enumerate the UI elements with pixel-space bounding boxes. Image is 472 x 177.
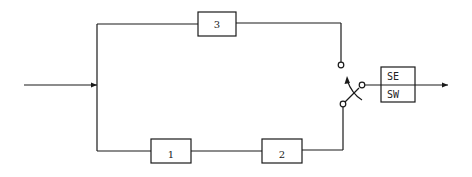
block-2-label: 2 <box>279 149 285 160</box>
changeover-switch <box>338 62 365 107</box>
output-block-bottom-label: SW <box>387 89 400 100</box>
block-diagram: 3 1 2 SE SW <box>0 0 472 177</box>
switch-contact-bottom <box>340 101 346 107</box>
block-3: 3 <box>198 12 236 36</box>
block-2: 2 <box>262 139 302 163</box>
switch-contact-top <box>338 62 344 68</box>
block-1-label: 1 <box>168 149 174 160</box>
block-3-label: 3 <box>214 19 220 30</box>
block-1: 1 <box>151 139 191 163</box>
switch-contact-common <box>359 82 365 88</box>
switch-arrow-icon <box>345 76 351 84</box>
output-block-top-label: SE <box>387 71 399 82</box>
